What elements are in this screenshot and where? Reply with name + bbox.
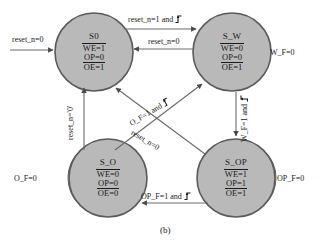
edge-sop-to-s0 (116, 88, 205, 154)
state-node-so[interactable] (69, 139, 147, 217)
edge-sop-to-sw (115, 84, 202, 150)
fsm-graphics (0, 0, 332, 248)
state-node-sop[interactable] (197, 139, 275, 217)
state-node-s0[interactable] (55, 13, 133, 91)
state-diagram-figure: S0 WE=1 OP=0 OE=1 S_W WE=0 OP=0 OE=1 S_O… (0, 0, 332, 248)
state-node-sw[interactable] (193, 13, 271, 91)
figure-caption: (b) (160, 225, 171, 235)
